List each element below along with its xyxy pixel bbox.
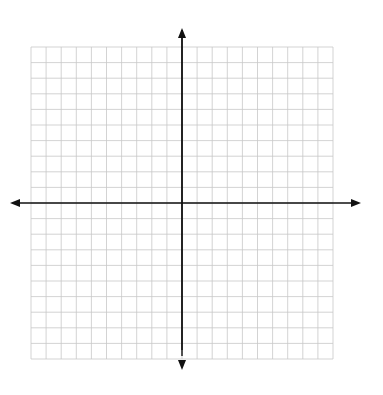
- coordinate-plane: [0, 0, 383, 395]
- y-axis-arrow-up-icon: [178, 28, 186, 38]
- x-axis-arrow-left-icon: [10, 199, 20, 207]
- y-axis-arrow-down-icon: [178, 360, 186, 370]
- x-axis-arrow-right-icon: [351, 199, 361, 207]
